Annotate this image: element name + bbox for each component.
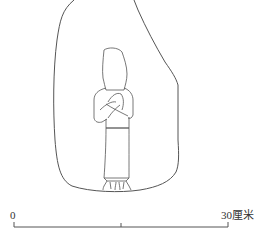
figure-head [103,48,127,90]
figure-torso [94,88,133,122]
scale-bar [14,222,228,227]
scale-start-label: 0 [10,210,16,221]
line-drawing [0,0,254,240]
figure-feet [103,178,131,190]
scale-end-label: 30厘米 [221,210,254,221]
figure-robe [104,117,129,178]
figure-hands [100,93,128,118]
stone-outline [54,0,179,192]
